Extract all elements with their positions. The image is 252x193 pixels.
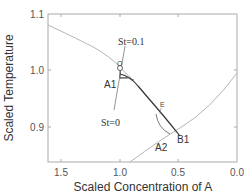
xtick-label: 1.5: [54, 167, 68, 178]
label-o: O: [117, 60, 123, 67]
ytick-label: 0.9: [30, 122, 44, 133]
xtick-label: 0.5: [171, 167, 185, 178]
label-st0: St=0: [101, 117, 120, 128]
xtick-label: 0.0: [230, 167, 244, 178]
trajectory-curve: [120, 74, 180, 136]
lower-gray-curve: [130, 73, 237, 162]
phase-plot: 1.1 1.0 0.9 1.5 1.0 0.5 0.0 Scaled Conce…: [0, 0, 252, 193]
y-axis-title: Scaled Temperature: [2, 34, 16, 142]
a2-loop: [156, 114, 170, 134]
label-st01: St=0.1: [118, 36, 144, 47]
ytick-label: 1.0: [30, 65, 44, 76]
label-a2: A2: [155, 142, 168, 153]
label-a1: A1: [104, 79, 117, 90]
ytick-label: 1.1: [30, 9, 44, 20]
x-axis-title: Scaled Concentration of A: [74, 180, 213, 193]
label-e: E: [160, 101, 165, 108]
label-b1: B1: [177, 134, 190, 145]
xtick-label: 1.0: [113, 167, 127, 178]
